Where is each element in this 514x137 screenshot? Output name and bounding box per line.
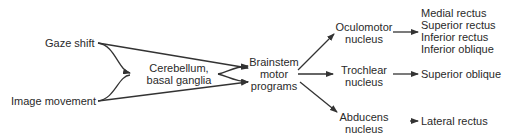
muscle-lateral-rectus: Lateral rectus: [421, 115, 488, 127]
muscle-superior-rectus: Superior rectus: [421, 19, 496, 31]
oculomotor-nucleus-node: Oculomotor nucleus: [335, 21, 393, 45]
abducens-line2: nucleus: [335, 123, 393, 135]
muscle-inferior-rectus: Inferior rectus: [421, 31, 496, 43]
trochlear-line2: nucleus: [335, 76, 393, 88]
muscle-inferior-oblique: Inferior oblique: [421, 43, 496, 55]
brainstem-line2: motor: [248, 68, 300, 80]
brainstem-line3: programs: [248, 80, 300, 92]
muscle-superior-oblique: Superior oblique: [421, 68, 501, 80]
brainstem-line1: Brainstem: [248, 56, 300, 68]
oculomotor-line1: Oculomotor: [335, 21, 393, 33]
input-gaze-shift: Gaze shift: [45, 37, 95, 49]
oculomotor-line2: nucleus: [335, 33, 393, 45]
brainstem-motor-programs-node: Brainstem motor programs: [248, 56, 300, 92]
cerebellum-line2: basal ganglia: [140, 74, 218, 86]
trochlear-nucleus-node: Trochlear nucleus: [335, 64, 393, 88]
muscle-medial-rectus: Medial rectus: [421, 7, 496, 19]
cerebellum-basal-ganglia-node: Cerebellum, basal ganglia: [140, 62, 218, 86]
oculomotor-muscles-list: Medial rectus Superior rectus Inferior r…: [421, 7, 496, 55]
trochlear-line1: Trochlear: [335, 64, 393, 76]
input-image-movement: Image movement: [11, 95, 96, 107]
cerebellum-line1: Cerebellum,: [140, 62, 218, 74]
abducens-nucleus-node: Abducens nucleus: [335, 111, 393, 135]
abducens-line1: Abducens: [335, 111, 393, 123]
